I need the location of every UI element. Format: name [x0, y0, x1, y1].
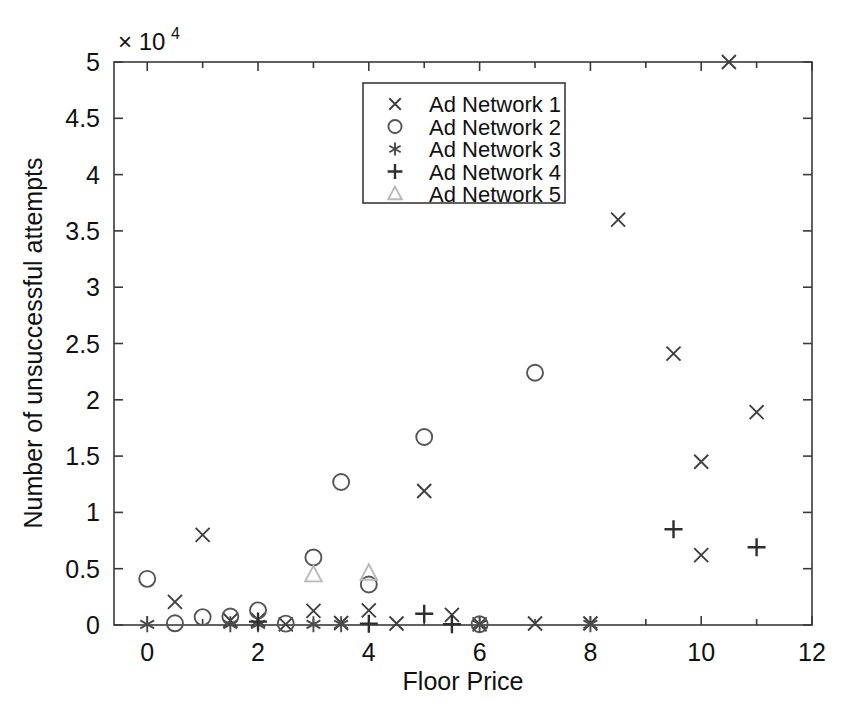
y-tick-label: 3.5: [65, 217, 100, 245]
y-axis-tick-labels: 00.511.522.533.544.55: [65, 48, 100, 639]
x-tick-label: 6: [473, 638, 487, 666]
legend-label: Ad Network 3: [429, 137, 561, 162]
y-tick-label: 5: [86, 48, 100, 76]
scatter-chart-figure: 024681012 00.511.522.533.544.55 × 10 4 F…: [0, 0, 861, 716]
legend: Ad Network 1Ad Network 2Ad Network 3Ad N…: [363, 83, 565, 207]
legend-label: Ad Network 1: [429, 92, 561, 117]
x-tick-label: 8: [583, 638, 597, 666]
y-tick-label: 4.5: [65, 104, 100, 132]
y-exponent-base: × 10: [118, 28, 165, 55]
x-tick-label: 4: [362, 638, 376, 666]
legend-label: Ad Network 5: [429, 182, 561, 207]
y-tick-label: 0: [86, 611, 100, 639]
x-tick-label: 10: [687, 638, 715, 666]
chart-svg: 024681012 00.511.522.533.544.55 × 10 4 F…: [0, 0, 861, 716]
y-tick-label: 3: [86, 273, 100, 301]
y-tick-label: 1.5: [65, 442, 100, 470]
legend-label: Ad Network 2: [429, 115, 561, 140]
y-axis-title: Number of unsuccessful attempts: [19, 158, 47, 529]
y-tick-label: 4: [86, 161, 100, 189]
y-axis-exponent-label: × 10 4: [118, 25, 180, 55]
y-tick-label: 2: [86, 386, 100, 414]
legend-label: Ad Network 4: [429, 160, 561, 185]
y-tick-label: 1: [86, 498, 100, 526]
y-tick-label: 0.5: [65, 555, 100, 583]
x-tick-label: 0: [140, 638, 154, 666]
y-exponent-power: 4: [171, 25, 180, 42]
x-axis-tick-labels: 024681012: [140, 638, 826, 666]
y-tick-label: 2.5: [65, 330, 100, 358]
x-axis-title: Floor Price: [403, 667, 524, 695]
x-tick-label: 2: [251, 638, 265, 666]
x-tick-label: 12: [798, 638, 826, 666]
